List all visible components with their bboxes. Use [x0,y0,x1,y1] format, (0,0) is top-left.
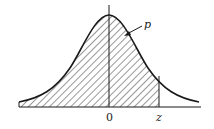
area-label-p: p [144,18,151,31]
mean-label: 0 [106,111,113,124]
normal-curve-diagram: p 0 z [0,0,214,129]
z-label: z [155,111,162,124]
